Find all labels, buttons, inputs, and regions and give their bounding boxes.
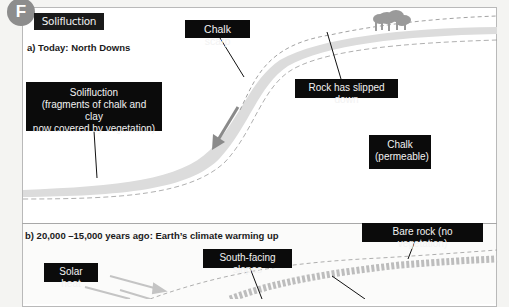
label-solifluction-line1: Solifluction [32, 87, 156, 99]
label-south-facing-slopes: South-facing slopes [203, 249, 292, 268]
leader-rock-slipped [327, 32, 341, 79]
label-solifluction-line2: (fragments of chalk and clay [32, 99, 156, 123]
label-rock-slipped-down: Rock has slipped down [295, 79, 398, 98]
label-bare-rock: Bare rock (no vegetation) [362, 223, 483, 242]
leader-solifluction [94, 131, 97, 178]
label-chalk-scarp: Chalk scarp [185, 20, 250, 38]
panel-b-heading: b) 20,000 –15,000 years ago: Earth’s cli… [25, 230, 279, 241]
label-chalk-line2: (permeable) [375, 151, 425, 163]
leader-bare-rock-band [332, 276, 365, 299]
label-chalk-line1: Chalk [375, 139, 425, 151]
trees-icon [373, 10, 411, 31]
panel-a-heading: a) Today: North Downs [27, 42, 130, 53]
figure-title: Solifluction [34, 13, 104, 30]
label-chalk-permeable: Chalk (permeable) [369, 135, 431, 169]
label-solifluction-line3: now covered by vegetation) [32, 123, 156, 135]
label-solar-heat: Solar heat [44, 263, 98, 282]
label-solifluction: Solifluction (fragments of chalk and cla… [26, 82, 162, 131]
